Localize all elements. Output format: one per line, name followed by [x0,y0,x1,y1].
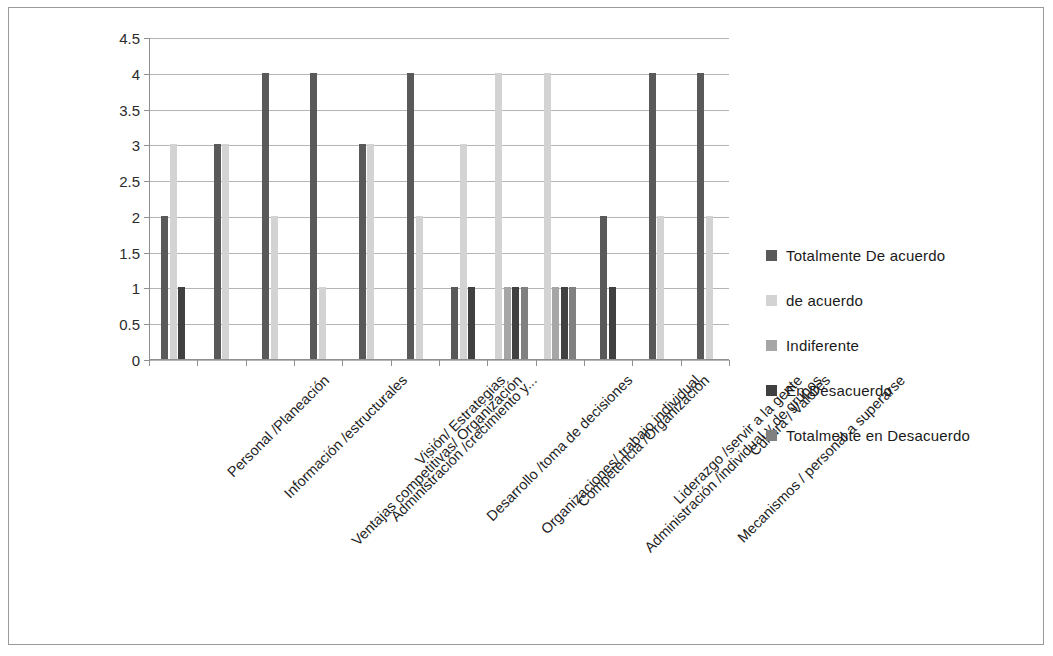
bar [495,73,502,359]
y-tick-mark [144,324,149,325]
gridline [149,217,729,218]
bar [262,73,269,359]
bar [468,287,475,359]
gridline [149,110,729,111]
legend-item[interactable]: Totalmente De acuerdo [766,244,1046,266]
bar [569,287,576,359]
bar [407,73,414,359]
gridline [149,181,729,182]
x-tick-mark [246,360,247,366]
bar [222,144,229,359]
x-axis-label: Competencia /Organización [575,372,713,510]
x-tick-mark [729,360,730,366]
x-tick-mark [681,360,682,366]
y-tick-mark [144,217,149,218]
x-tick-mark [294,360,295,366]
bar [271,216,278,359]
bar [359,144,366,359]
legend-item-label: de acuerdo [786,292,863,309]
legend-swatch-icon [766,250,777,261]
chart-page: 4.543.532.521.510.50 Personal /Planeació… [0,0,1053,656]
x-tick-mark [536,360,537,366]
legend-item[interactable]: En Desacuerdo [766,379,1046,401]
y-tick-mark [144,74,149,75]
bar [609,287,616,359]
x-tick-mark [197,360,198,366]
bar [600,216,607,359]
gridline [149,253,729,254]
x-axis-label: Información /estructurales [281,372,410,501]
y-tick-label: 1 [132,280,140,297]
legend-item-label: Indiferente [786,337,859,354]
bar [649,73,656,359]
bar [178,287,185,359]
x-tick-mark [439,360,440,366]
bar [544,73,551,359]
bar [561,287,568,359]
bar [170,144,177,359]
legend-swatch-icon [766,385,777,396]
bar [552,287,559,359]
bar [310,73,317,359]
y-tick-label: 2 [132,208,140,225]
legend-item[interactable]: de acuerdo [766,289,1046,311]
gridline [149,74,729,75]
y-tick-label: 4 [132,65,140,82]
y-tick-mark [144,110,149,111]
legend-item-label: Totalmente en Desacuerdo [786,427,970,444]
gridline [149,145,729,146]
x-axis-label: Organizaciones/ trabajo individual [538,372,703,537]
x-axis-label: Personal /Planeación [224,372,332,480]
y-tick-mark [144,253,149,254]
legend-swatch-icon [766,340,777,351]
bar [521,287,528,359]
bar [416,216,423,359]
x-tick-mark [584,360,585,366]
x-axis-label: Desarrollo /toma de decisiones [484,372,636,524]
x-tick-mark [391,360,392,366]
bar [512,287,519,359]
bar [504,287,511,359]
bar [367,144,374,359]
y-tick-label: 4.5 [119,30,140,47]
legend-swatch-icon [766,430,777,441]
bar [214,144,221,359]
legend-item[interactable]: Indiferente [766,334,1046,356]
bar [451,287,458,359]
gridline [149,324,729,325]
y-tick-label: 0.5 [119,316,140,333]
gridline [149,288,729,289]
plot-area: 4.543.532.521.510.50 Personal /Planeació… [149,38,729,360]
plot-inner: 4.543.532.521.510.50 [149,38,729,360]
y-tick-label: 3.5 [119,101,140,118]
y-tick-mark [144,38,149,39]
x-axis-label: Visión/ Estrategias [412,372,508,468]
bar [657,216,664,359]
x-tick-mark [632,360,633,366]
x-axis-label: Ventajas competitivas/ Organización [349,372,526,549]
legend-item[interactable]: Totalmente en Desacuerdo [766,424,1046,446]
bar [706,216,713,359]
bar [697,73,704,359]
y-axis-line [149,38,150,360]
y-tick-label: 0 [132,352,140,369]
chart-frame: 4.543.532.521.510.50 Personal /Planeació… [8,7,1044,645]
y-tick-label: 1.5 [119,244,140,261]
gridline [149,38,729,39]
bar [161,216,168,359]
y-tick-mark [144,181,149,182]
chart-legend: Totalmente De acuerdo de acuerdoIndifere… [766,244,1046,469]
legend-item-label: Totalmente De acuerdo [786,247,945,264]
y-tick-label: 3 [132,137,140,154]
bar [460,144,467,359]
x-tick-mark [342,360,343,366]
x-tick-mark [149,360,150,366]
legend-item-label: En Desacuerdo [786,382,892,399]
y-tick-label: 2.5 [119,173,140,190]
x-axis-label: Administración /crecimiento y... [387,372,539,524]
y-tick-mark [144,145,149,146]
y-tick-mark [144,288,149,289]
bar [319,287,326,359]
x-tick-mark [487,360,488,366]
legend-swatch-icon [766,295,777,306]
